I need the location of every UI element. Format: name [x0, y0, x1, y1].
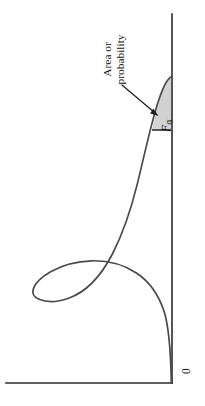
area-probability-annotation: Area or probability	[101, 21, 128, 97]
f-distribution-figure: Area or probability Fα 0	[0, 0, 205, 406]
annotation-line-1: Area or	[101, 21, 114, 97]
critical-value-subscript: α	[164, 119, 174, 125]
origin-axis-label: 0	[180, 368, 194, 374]
critical-value-symbol: F	[159, 125, 173, 132]
density-line	[33, 77, 171, 383]
critical-value-label: Fα	[160, 119, 175, 132]
annotation-line-2: probability	[114, 21, 127, 97]
